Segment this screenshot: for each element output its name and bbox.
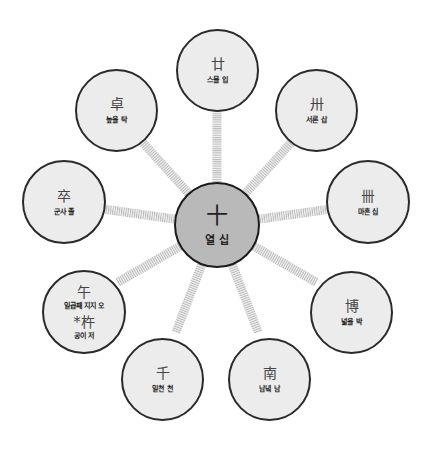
node-reading: 넓을 박 [341, 318, 361, 327]
node-hanja: 卌 [361, 188, 375, 204]
node-center: 十 열 십 [174, 182, 260, 268]
spoke-thousand [172, 261, 207, 334]
node-hanja: 南 [263, 365, 277, 381]
node-reading: 군사 졸 [54, 208, 74, 217]
node-hanja: 廿 [211, 56, 225, 72]
spoke-broad [249, 241, 318, 286]
node-noon: 午 일곱째 지지 오 *杵 공이 저 [42, 270, 126, 354]
spoke-twenty [213, 110, 222, 185]
node-reading: 일곱째 지지 오 [64, 302, 105, 311]
spoke-noon [115, 241, 184, 286]
spoke-thirty [240, 137, 297, 199]
node-hanja: 午 [77, 284, 91, 300]
node-reading: 높을 탁 [106, 116, 126, 125]
node-high: 卓 높을 탁 [75, 69, 158, 152]
node-thirty: 卅 서른 삽 [275, 69, 358, 152]
node-thousand: 千 일천 천 [121, 338, 204, 421]
node-twenty: 廿 스물 입 [176, 29, 259, 112]
center-reading: 열 십 [205, 234, 229, 247]
node-reading: 일천 천 [152, 385, 172, 394]
node-hanja: 千 [156, 365, 170, 381]
node-reading-secondary: 공이 저 [74, 332, 94, 341]
node-hanja-secondary: *杵 [74, 314, 95, 330]
node-reading: 서른 삽 [306, 116, 326, 125]
node-reading: 스물 입 [207, 76, 227, 85]
center-hanja: 十 [206, 204, 228, 228]
spoke-soldier [102, 205, 178, 224]
spoke-forty [256, 205, 332, 224]
spoke-high [137, 137, 194, 199]
node-hanja: 卓 [110, 96, 124, 112]
node-broad: 博 넓을 박 [310, 271, 393, 354]
node-hanja: 卒 [57, 188, 71, 204]
node-hanja: 卅 [310, 96, 324, 112]
node-soldier: 卒 군사 졸 [22, 160, 106, 244]
node-south: 南 남녘 남 [228, 338, 311, 421]
node-hanja: 博 [345, 298, 359, 314]
node-reading: 마흔 십 [358, 208, 378, 217]
spoke-south [227, 261, 262, 334]
node-reading: 남녘 남 [259, 385, 279, 394]
node-forty: 卌 마흔 십 [326, 160, 410, 244]
